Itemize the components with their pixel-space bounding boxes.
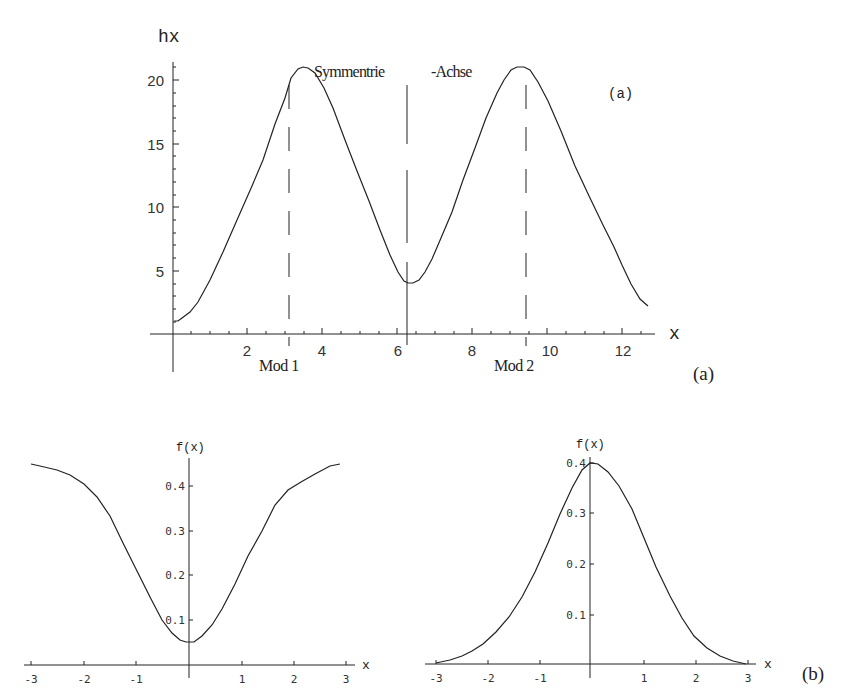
panel-label-b: (b) [802, 663, 824, 685]
chart-br-xlabel: x [764, 657, 772, 672]
chart-b-right: 0.4 0.3 0.2 0.1 -3 -2 -1 1 2 3 f(x) x (b… [425, 438, 824, 685]
chart-a-ytick-15: 15 [147, 136, 164, 153]
chart-a-xlabel: x [669, 324, 680, 344]
chart-a-xtick-6: 6 [394, 342, 402, 359]
chart-bl-ytick-0.4: 0.4 [165, 480, 185, 493]
chart-br-ytick-0.2: 0.2 [566, 558, 586, 571]
chart-a-inner-label: (a) [608, 86, 633, 102]
chart-br-ytick-0.1: 0.1 [566, 609, 586, 622]
symmetry-label-left: Symmentrie [314, 63, 385, 81]
mod2-label: Mod 2 [494, 357, 534, 374]
chart-a-ylabel: hx [158, 27, 180, 47]
chart-br-xtick-2: 2 [693, 672, 700, 685]
chart-bl-xtick-2: 2 [291, 673, 298, 686]
chart-a-ytick-10: 10 [147, 199, 164, 216]
chart-br-xtick-m2: -2 [481, 672, 494, 685]
chart-bl-xtick-m1: -1 [129, 673, 142, 686]
chart-br-x-ticks [436, 660, 748, 664]
symmetry-label-right: -Achse [431, 63, 472, 80]
chart-br-xtick-1: 1 [641, 672, 648, 685]
chart-a-xtick-10: 10 [542, 342, 559, 359]
panel-label-a: (a) [693, 363, 714, 385]
chart-a-y-ticks [173, 67, 179, 322]
chart-b-left: 0.4 0.3 0.2 0.1 -3 -2 -1 1 2 3 f(x) x [24, 441, 370, 686]
chart-a-x-ticks [191, 328, 641, 334]
chart-a-xtick-12: 12 [615, 342, 632, 359]
chart-bl-xlabel: x [362, 658, 370, 673]
chart-br-y-ticks [590, 463, 594, 615]
chart-bl-y-ticks [189, 486, 193, 620]
chart-a-curve [174, 67, 648, 321]
mod1-label: Mod 1 [259, 357, 299, 374]
chart-bl-ytick-0.2: 0.2 [165, 569, 185, 582]
chart-a: 20 15 10 5 2 4 6 8 10 12 hx x Symmentrie… [147, 27, 714, 385]
chart-a-ytick-5: 5 [156, 263, 164, 280]
chart-bl-xtick-m2: -2 [77, 673, 90, 686]
chart-bl-xtick-1: 1 [239, 673, 246, 686]
chart-bl-xtick-m3: -3 [24, 673, 37, 686]
chart-bl-ylabel: f(x) [176, 441, 205, 455]
chart-a-ytick-20: 20 [147, 72, 164, 89]
chart-a-xtick-2: 2 [243, 342, 251, 359]
chart-br-ylabel: f(x) [576, 438, 605, 452]
figure-canvas: 20 15 10 5 2 4 6 8 10 12 hx x Symmentrie… [0, 0, 850, 699]
chart-br-xtick-m3: -3 [429, 672, 442, 685]
chart-bl-curve [31, 464, 340, 642]
chart-bl-ytick-0.1: 0.1 [165, 614, 185, 627]
chart-br-ytick-0.3: 0.3 [566, 507, 586, 520]
chart-a-xtick-8: 8 [468, 342, 476, 359]
chart-br-xtick-3: 3 [745, 672, 752, 685]
chart-a-xtick-4: 4 [318, 342, 326, 359]
chart-bl-xtick-3: 3 [343, 673, 350, 686]
chart-bl-ytick-0.3: 0.3 [165, 525, 185, 538]
chart-br-xtick-m1: -1 [533, 672, 546, 685]
